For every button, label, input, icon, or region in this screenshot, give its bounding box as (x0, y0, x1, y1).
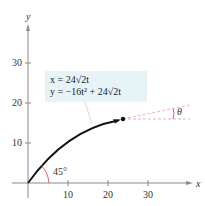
trajectory-arrow-icon (113, 119, 121, 123)
trajectory-diagram: 10 20 30 10 20 30 x y (0, 0, 205, 206)
x-axis-label: x (195, 178, 201, 189)
theta-label: θ (177, 106, 182, 117)
x-tick-label: 30 (143, 189, 153, 200)
leader-line (85, 102, 92, 124)
y-tick-label: 10 (12, 137, 22, 148)
x-tick-label: 20 (103, 189, 113, 200)
x-tick-label: 10 (63, 189, 73, 200)
y-axis-label: y (25, 11, 31, 22)
y-tick-label: 30 (12, 57, 22, 68)
y-tick-label: 20 (12, 97, 22, 108)
position-point (121, 117, 125, 121)
theta-arc (173, 109, 174, 120)
y-axis-arrow-icon (26, 24, 30, 31)
x-axis-arrow-icon (186, 181, 193, 185)
equation-y: y = −16t² + 24√2t (50, 86, 121, 97)
launch-angle-arc (41, 165, 49, 183)
trajectory-curve (28, 121, 118, 184)
equation-x: x = 24√2t (50, 74, 89, 85)
launch-angle-label: 45° (53, 166, 67, 177)
